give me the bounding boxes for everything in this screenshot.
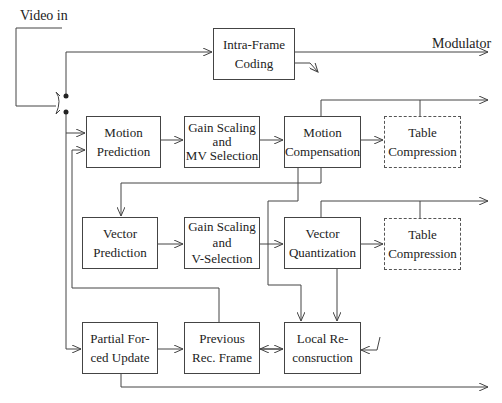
block-text: Intra-Frame xyxy=(223,35,285,54)
block-text: consruction xyxy=(292,348,353,367)
gain-scaling-mv-selection-block: Gain Scaling and MV Selection xyxy=(184,116,260,168)
table-compression-block-1: Table Compression xyxy=(384,116,461,168)
block-text: Coding xyxy=(235,54,273,73)
block-text: Rec. Frame xyxy=(192,348,252,367)
block-text: Prediction xyxy=(93,243,146,262)
block-text: V-Selection xyxy=(192,251,253,267)
block-text: Compression xyxy=(388,244,457,263)
motion-prediction-block: Motion Prediction xyxy=(86,116,161,168)
block-text: Motion xyxy=(104,123,142,142)
block-text: Motion xyxy=(303,123,341,142)
local-reconstruction-block: Local Re- consruction xyxy=(284,322,361,374)
block-text: ced Update xyxy=(91,348,150,367)
block-text: Compensation xyxy=(285,142,360,161)
block-text: Table xyxy=(408,123,437,142)
video-in-label: Video in xyxy=(20,8,68,24)
block-text: Compression xyxy=(388,142,457,161)
motion-compensation-block: Motion Compensation xyxy=(284,116,361,168)
modulator-label: Modulator xyxy=(432,36,491,52)
block-text: Gain Scaling xyxy=(188,219,256,235)
block-text: Gain Scaling xyxy=(188,121,256,135)
intra-frame-coding-block: Intra-Frame Coding xyxy=(213,28,295,80)
block-text: Local Re- xyxy=(297,329,349,348)
previous-rec-frame-block: Previous Rec. Frame xyxy=(184,322,260,374)
block-text: Table xyxy=(408,225,437,244)
switch-contact-bottom xyxy=(64,110,69,115)
block-text: and xyxy=(213,135,232,149)
gain-scaling-v-selection-block: Gain Scaling and V-Selection xyxy=(184,217,260,269)
switch-contact-top xyxy=(64,94,69,99)
block-text: Previous xyxy=(199,329,245,348)
vector-quantization-block: Vector Quantization xyxy=(284,217,361,269)
block-text: and xyxy=(213,235,232,251)
partial-forced-update-block: Partial For- ced Update xyxy=(82,322,158,374)
block-text: Prediction xyxy=(97,142,150,161)
block-text: Vector xyxy=(306,224,340,243)
vector-prediction-block: Vector Prediction xyxy=(82,217,158,269)
block-text: MV Selection xyxy=(186,149,258,163)
block-text: Vector xyxy=(103,224,137,243)
table-compression-block-2: Table Compression xyxy=(384,218,461,270)
block-text: Quantization xyxy=(289,243,356,262)
block-text: Partial For- xyxy=(90,329,149,348)
